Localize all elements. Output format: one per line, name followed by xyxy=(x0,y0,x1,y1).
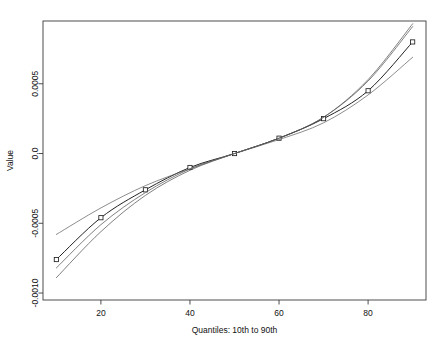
x-tick-label-80: 80 xyxy=(363,308,373,318)
quantile-plot-svg: 204060800.00050.0-0.0005-0.0010Quantiles… xyxy=(0,0,448,344)
x-axis-title: Quantiles: 10th to 90th xyxy=(192,325,278,335)
y-tick-label-3: -0.0010 xyxy=(30,278,40,307)
data-point-q20 xyxy=(99,216,103,220)
x-tick-label-20: 20 xyxy=(96,308,106,318)
series-line-ols-reference xyxy=(56,57,412,234)
data-point-q90 xyxy=(411,40,415,44)
y-tick-label-1: 0.0 xyxy=(30,147,40,159)
x-tick-label-40: 40 xyxy=(185,308,195,318)
series-estimate xyxy=(54,40,414,262)
series-band-upper xyxy=(56,24,412,268)
data-point-q10 xyxy=(54,257,58,261)
y-axis-title: Value xyxy=(5,150,15,171)
series-line-estimate xyxy=(56,42,412,260)
data-point-q80 xyxy=(366,89,370,93)
chart-container: 204060800.00050.0-0.0005-0.0010Quantiles… xyxy=(0,0,448,344)
y-tick-label-2: -0.0005 xyxy=(30,209,40,238)
series-line-band-upper xyxy=(56,24,412,268)
series-ols-reference xyxy=(56,57,412,234)
plot-frame xyxy=(43,21,426,300)
x-tick-label-60: 60 xyxy=(274,308,284,318)
y-tick-label-0: 0.0005 xyxy=(30,71,40,97)
